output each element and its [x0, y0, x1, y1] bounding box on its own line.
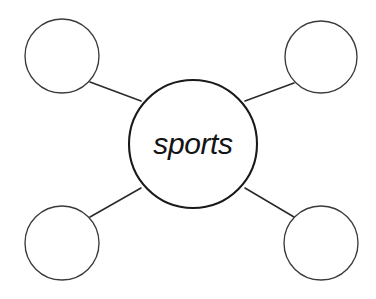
- connector-center-to-bottom-left: [90, 188, 141, 217]
- satellite-node-top-left[interactable]: [25, 19, 99, 93]
- satellite-node-bottom-left[interactable]: [25, 206, 99, 280]
- connector-center-to-top-left: [90, 82, 141, 101]
- satellite-node-bottom-right[interactable]: [284, 206, 358, 280]
- connector-center-to-bottom-right: [245, 188, 294, 217]
- satellite-node-top-right[interactable]: [285, 21, 357, 93]
- concept-web-diagram: sports: [0, 0, 376, 299]
- connector-center-to-top-right: [245, 83, 294, 101]
- center-node-label: sports: [153, 127, 233, 160]
- diagram-canvas: sports: [0, 0, 376, 299]
